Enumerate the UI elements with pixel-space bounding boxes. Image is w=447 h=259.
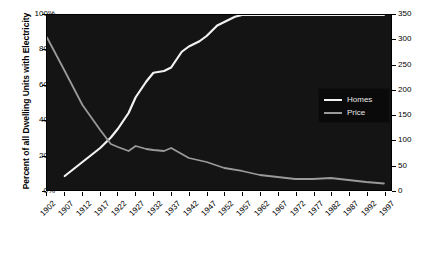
y-tick-right-mark: [392, 166, 396, 167]
y-tick-right-label: 150: [398, 110, 438, 119]
x-tick-mark: [367, 192, 368, 196]
x-tick-mark: [100, 192, 101, 196]
x-tick-mark: [189, 192, 190, 196]
x-tick-mark: [46, 192, 47, 196]
y-tick-right-mark: [392, 90, 396, 91]
y-tick-right-label: 350: [398, 9, 438, 18]
x-tick-mark: [171, 192, 172, 196]
y-tick-right-label: 100: [398, 135, 438, 144]
x-tick-mark: [314, 192, 315, 196]
y-tick-right-mark: [392, 14, 396, 15]
y-axis-left-title: Percent of all Dwelling Units with Elect…: [21, 11, 31, 191]
x-tick-mark: [331, 192, 332, 196]
y-tick-right-label: 250: [398, 60, 438, 69]
x-tick-mark: [260, 192, 261, 196]
x-tick-mark: [82, 192, 83, 196]
y-tick-right-label: 0: [398, 186, 438, 195]
x-tick-mark: [385, 192, 386, 196]
y-tick-right-mark: [392, 191, 396, 192]
x-tick-mark: [296, 192, 297, 196]
y-tick-right-mark: [392, 39, 396, 40]
chart-legend: Homes Price: [318, 88, 390, 123]
x-tick-mark: [153, 192, 154, 196]
y-tick-right-mark: [392, 140, 396, 141]
legend-label-price: Price: [347, 109, 365, 117]
y-tick-right-mark: [392, 65, 396, 66]
chart-figure: Percent of all Dwelling Units with Elect…: [0, 0, 447, 259]
legend-swatch-price: [324, 112, 342, 114]
x-tick-mark: [242, 192, 243, 196]
y-tick-right-label: 300: [398, 34, 438, 43]
x-tick-mark: [224, 192, 225, 196]
y-tick-right-mark: [392, 115, 396, 116]
x-tick-mark: [349, 192, 350, 196]
y-tick-right-label: 200: [398, 85, 438, 94]
x-tick-mark: [135, 192, 136, 196]
x-tick-mark: [64, 192, 65, 196]
x-tick-mark: [278, 192, 279, 196]
legend-item-homes: Homes: [324, 93, 384, 106]
legend-swatch-homes: [324, 99, 342, 101]
x-tick-mark: [117, 192, 118, 196]
legend-item-price: Price: [324, 106, 384, 119]
y-tick-right-label: 50: [398, 161, 438, 170]
legend-label-homes: Homes: [347, 96, 372, 104]
x-tick-mark: [207, 192, 208, 196]
